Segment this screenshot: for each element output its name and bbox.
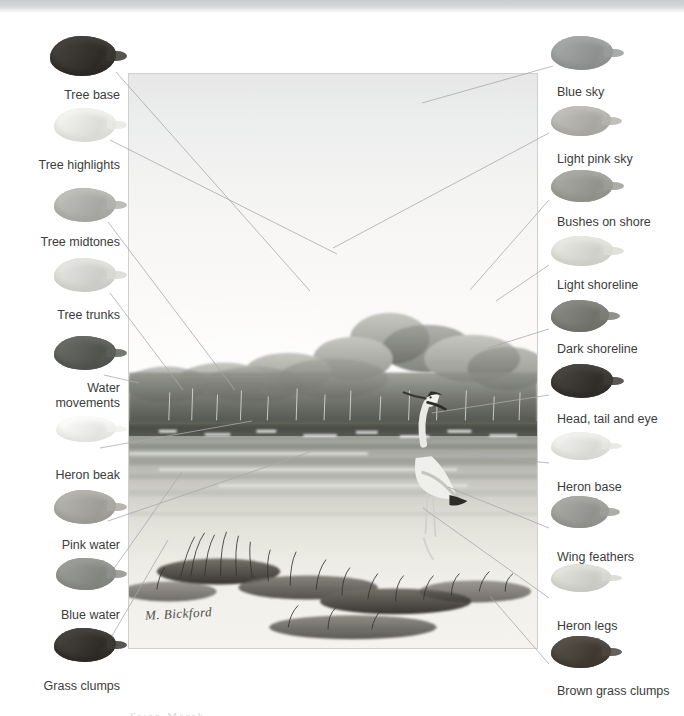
swatch-label-wing-feathers: Wing feathers [557,550,684,565]
swatch-brush-tail [602,443,622,450]
bottom-cropped-caption: Swan Marsh [130,710,205,716]
swatch-brush-tail [107,51,127,61]
swatch-head-tail-eye [551,364,613,398]
swatch-label-blue-water: Blue water [0,608,120,623]
swatch-bushes-on-shore [551,170,613,202]
swatch-brush-tail [107,349,127,357]
swatch-heron-legs [551,564,611,592]
swatch-label-dark-shoreline: Dark shoreline [557,342,684,357]
swatch-brush-tail [107,271,127,279]
swatch-brush-tail [604,377,624,385]
swatch-brush-tail [602,575,622,582]
swatch-label-grass-clumps: Grass clumps [0,679,120,694]
swatch-brush-tail [107,426,127,432]
swatch-grass-clumps [54,628,116,662]
swatch-label-brown-grass-clumps: Brown grass clumps [557,684,684,699]
swatch-label-tree-trunks: Tree trunks [0,308,120,323]
swatch-brush-tail [107,201,127,209]
swatch-heron-beak [56,416,116,442]
swatch-label-blue-sky: Blue sky [557,85,684,100]
swatch-tree-trunks [54,258,116,292]
swatch-label-heron-legs: Heron legs [557,619,684,634]
swatch-brush-tail [107,641,127,649]
swatch-pink-water [54,490,116,524]
swatch-brush-tail [107,503,127,511]
swatch-brush-tail [600,312,620,320]
swatch-water-movements [54,336,116,370]
swatch-label-heron-base: Heron base [557,480,684,495]
swatch-brush-tail [602,648,622,656]
swatch-tree-midtones [54,188,116,222]
swatch-brush-tail [602,117,622,124]
swatch-label-tree-midtones: Tree midtones [0,235,120,250]
swatch-label-tree-base: Tree base [0,88,120,103]
top-bar-shadow [0,10,684,12]
swatch-tree-highlights [54,108,116,142]
swatch-wing-feathers [551,496,609,528]
swatch-dark-shoreline [551,300,609,332]
swatch-label-light-shoreline: Light shoreline [557,278,684,293]
swatch-heron-base [551,432,611,460]
swatch-tree-base [50,36,116,76]
swatch-label-heron-beak: Heron beak [0,468,120,483]
swatch-label-head-tail-and-eye: Head, tail and eye [557,412,684,427]
swatch-blue-sky [551,36,613,70]
swatch-brush-tail [107,121,127,129]
swatch-label-bushes-on-shore: Bushes on shore [557,215,684,230]
top-grey-bar [0,0,684,10]
painting-plate: M. Bickford [128,73,538,649]
painting-artwork: M. Bickford [129,74,537,648]
swatch-brush-tail [600,508,620,516]
swatch-light-shoreline [551,236,613,266]
swatch-label-light-pink-sky: Light pink sky [557,152,684,167]
swatch-brush-tail [107,570,127,578]
swatch-brush-tail [604,182,624,190]
swatch-blue-water [56,558,116,590]
swatch-label-water-movements: Water movements [0,381,120,411]
swatch-brown-grass-clumps [551,636,611,668]
swatch-light-pink-sky [551,106,611,136]
swatch-brush-tail [604,247,624,254]
painting-detail-overlay [129,74,537,647]
swatch-label-pink-water: Pink water [0,538,120,553]
swatch-brush-tail [604,49,624,57]
swatch-label-tree-highlights: Tree highlights [0,158,120,173]
